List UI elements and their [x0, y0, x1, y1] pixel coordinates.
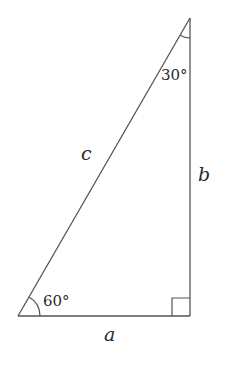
- right-angle-marker: [172, 298, 190, 316]
- angle-label-60: 60°: [43, 292, 70, 310]
- side-c: [18, 18, 190, 316]
- angle-arc-60: [29, 297, 40, 316]
- angle-label-30: 30°: [161, 66, 188, 84]
- right-triangle-diagram: 30° 60° c b a: [0, 0, 230, 365]
- angle-arc-30: [180, 35, 190, 38]
- side-label-a: a: [104, 323, 115, 345]
- side-label-c: c: [81, 142, 92, 164]
- side-label-b: b: [198, 163, 210, 185]
